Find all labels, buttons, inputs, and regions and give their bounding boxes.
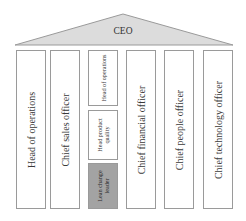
pillar-chief-financial-officer: Chief financial officer [126, 50, 156, 209]
pillar-label: Chief people officer [174, 89, 185, 169]
pillar-label: Chief financial officer [136, 85, 147, 174]
pillar-label: Chief sales officer [60, 93, 71, 166]
box-head-of-operations: Head of operations [88, 50, 118, 106]
pillar-head-of-operations: Head of operations [16, 50, 46, 209]
box-lean-change-leader: Lean change leader [88, 163, 118, 209]
pillar-chief-technology-officer: Chief technology officer [203, 50, 233, 209]
ceo-label: CEO [0, 26, 246, 36]
box-label: Head product quality [96, 109, 110, 161]
pillar-label: Chief technology officer [213, 80, 224, 178]
box-label: Lean change leader [96, 164, 110, 208]
roof-triangle [0, 0, 246, 50]
pillar-label: Head of operations [26, 91, 37, 167]
pillar-chief-people-officer: Chief people officer [164, 50, 194, 209]
box-label: Head of operations [100, 52, 107, 104]
box-head-product-quality: Head product quality [88, 110, 118, 160]
pillar-chief-sales-officer: Chief sales officer [50, 50, 80, 209]
